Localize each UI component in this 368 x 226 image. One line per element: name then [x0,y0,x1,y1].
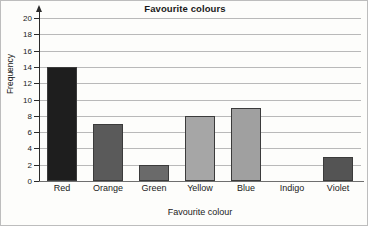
bars-layer [39,18,361,181]
bar-yellow[interactable] [185,116,215,181]
y-axis-tick-label: 2 [2,160,32,169]
bar-green[interactable] [139,165,169,181]
y-axis-tick-label: 6 [2,128,32,137]
bar-slot [223,18,269,181]
bar-slot [177,18,223,181]
bar-red[interactable] [47,67,77,181]
bar-slot [269,18,315,181]
x-axis-tick-label-blue: Blue [223,183,269,193]
x-axis-tick-label-violet: Violet [315,183,361,193]
bar-violet[interactable] [323,157,353,181]
y-axis-tick-mark [34,116,39,117]
y-axis-tick-mark [34,181,39,182]
x-axis-tick-label-green: Green [131,183,177,193]
y-axis-arrow-icon [36,5,42,12]
x-axis-tick-label-yellow: Yellow [177,183,223,193]
x-axis-tick-label-red: Red [39,183,85,193]
bar-chart-figure: Favourite colours 20181614121086420 Freq… [0,0,368,226]
y-axis-tick-mark [34,67,39,68]
bar-blue[interactable] [231,108,261,181]
y-axis-tick-mark [34,148,39,149]
x-axis-line [39,181,364,182]
y-axis-tick-mark [34,83,39,84]
bar-orange[interactable] [93,124,123,181]
bar-slot [39,18,85,181]
bar-slot [315,18,361,181]
y-axis-tick-mark [34,100,39,101]
chart-title: Favourite colours [1,3,368,14]
y-axis-title: Frequency [5,29,15,119]
y-axis-tick-label: 4 [2,144,32,153]
bar-slot [85,18,131,181]
x-axis-tick-label-orange: Orange [85,183,131,193]
x-axis-title: Favourite colour [39,207,361,217]
y-axis-tick-mark [34,132,39,133]
y-axis-tick-mark [34,34,39,35]
x-axis-tick-label-indigo: Indigo [269,183,315,193]
y-axis-tick-mark [34,165,39,166]
y-axis-tick-mark [34,51,39,52]
y-axis-tick-mark [34,18,39,19]
y-axis-tick-label: 0 [2,177,32,186]
bar-slot [131,18,177,181]
y-axis-tick-label: 20 [2,14,32,23]
